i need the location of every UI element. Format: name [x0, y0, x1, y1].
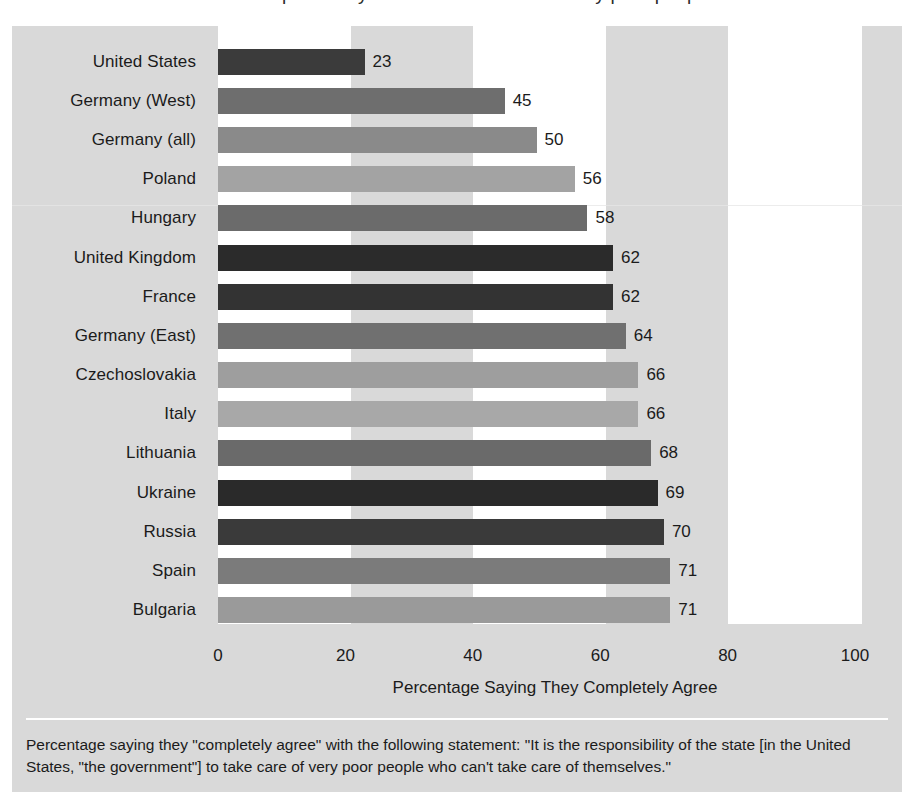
x-tick-label: 0	[213, 646, 222, 666]
x-tick-label: 100	[841, 646, 869, 666]
bar	[218, 49, 365, 75]
category-label: Bulgaria	[12, 600, 208, 620]
bar-value-label: 45	[513, 91, 532, 111]
bar-value-label: 62	[621, 287, 640, 307]
bar-row: Italy66	[12, 395, 902, 434]
category-label: Ukraine	[12, 483, 208, 503]
bar-row: Germany (East)64	[12, 316, 902, 355]
figure-container: United States23Germany (West)45Germany (…	[12, 26, 902, 792]
bar-value-label: 66	[646, 404, 665, 424]
bar	[218, 558, 670, 584]
category-label: Poland	[12, 169, 208, 189]
bar-row: Lithuania68	[12, 434, 902, 473]
bar-row: Ukraine69	[12, 473, 902, 512]
x-tick-label: 60	[591, 646, 610, 666]
category-label: Germany (West)	[12, 91, 208, 111]
x-tick-label: 80	[718, 646, 737, 666]
bar-track: 71	[208, 551, 902, 590]
bar-track: 68	[208, 434, 902, 473]
bar-track: 58	[208, 199, 902, 238]
bar-row: Bulgaria71	[12, 591, 902, 630]
bar	[218, 401, 638, 427]
bar-track: 62	[208, 238, 902, 277]
bar-row: France62	[12, 277, 902, 316]
x-tick-label: 40	[463, 646, 482, 666]
bar-value-label: 71	[678, 561, 697, 581]
cropped-heading-text: of the responsibility of the state to ca…	[0, 0, 914, 5]
category-label: United Kingdom	[12, 248, 208, 268]
bar-row: Czechoslovakia66	[12, 356, 902, 395]
bar	[218, 362, 638, 388]
bar-track: 70	[208, 512, 902, 551]
x-axis-title: Percentage Saying They Completely Agree	[208, 678, 902, 698]
bar	[218, 127, 537, 153]
bar-row: Russia70	[12, 512, 902, 551]
bar-track: 66	[208, 356, 902, 395]
bar-row: United States23	[12, 42, 902, 81]
bar-track: 56	[208, 160, 902, 199]
bar	[218, 245, 613, 271]
bar-row: Germany (West)45	[12, 81, 902, 120]
bar-value-label: 62	[621, 248, 640, 268]
bar-value-label: 58	[595, 208, 614, 228]
bar	[218, 166, 575, 192]
bar	[218, 323, 626, 349]
bar-track: 45	[208, 81, 902, 120]
bar-track: 23	[208, 42, 902, 81]
bar	[218, 284, 613, 310]
bar-value-label: 66	[646, 365, 665, 385]
bar-row: Hungary58	[12, 199, 902, 238]
bar-value-label: 71	[678, 600, 697, 620]
bar-value-label: 23	[373, 52, 392, 72]
bar-row: United Kingdom62	[12, 238, 902, 277]
bar	[218, 88, 505, 114]
caption-divider	[26, 718, 888, 720]
bar-value-label: 50	[545, 130, 564, 150]
bar-value-label: 69	[666, 483, 685, 503]
category-label: Spain	[12, 561, 208, 581]
category-label: United States	[12, 52, 208, 72]
bar-row: Germany (all)50	[12, 120, 902, 159]
x-axis-ticks: 020406080100	[208, 646, 902, 670]
bar-track: 66	[208, 395, 902, 434]
bar-value-label: 68	[659, 443, 678, 463]
bar-track: 71	[208, 591, 902, 630]
category-label: Italy	[12, 404, 208, 424]
category-label: Germany (all)	[12, 130, 208, 150]
bar	[218, 597, 670, 623]
cropped-heading-above-figure: of the responsibility of the state to ca…	[0, 0, 914, 26]
bar-value-label: 64	[634, 326, 653, 346]
figure-caption: Percentage saying they "completely agree…	[26, 734, 892, 778]
bar	[218, 519, 664, 545]
bar	[218, 440, 651, 466]
category-label: France	[12, 287, 208, 307]
bar-rows: United States23Germany (West)45Germany (…	[12, 42, 902, 630]
bar-track: 62	[208, 277, 902, 316]
bar-track: 69	[208, 473, 902, 512]
bar-value-label: 70	[672, 522, 691, 542]
x-tick-label: 20	[336, 646, 355, 666]
bar-value-label: 56	[583, 169, 602, 189]
category-label: Czechoslovakia	[12, 365, 208, 385]
category-label: Lithuania	[12, 443, 208, 463]
bar-track: 50	[208, 120, 902, 159]
bar-row: Spain71	[12, 551, 902, 590]
bar-track: 64	[208, 316, 902, 355]
bar	[218, 205, 587, 231]
bar-row: Poland56	[12, 160, 902, 199]
chart-plot-area: United States23Germany (West)45Germany (…	[12, 26, 902, 691]
bar	[218, 480, 658, 506]
category-label: Russia	[12, 522, 208, 542]
category-label: Germany (East)	[12, 326, 208, 346]
category-label: Hungary	[12, 208, 208, 228]
